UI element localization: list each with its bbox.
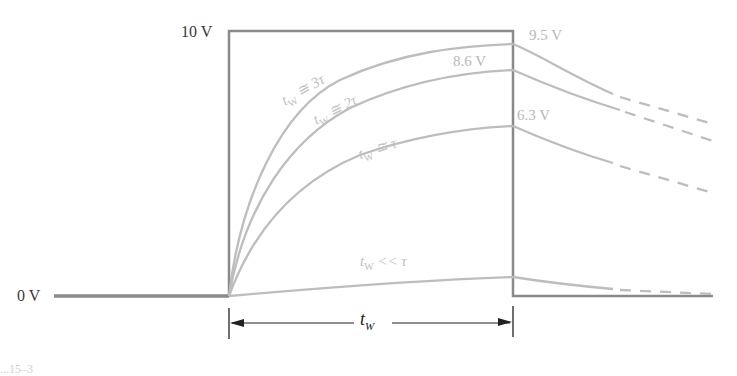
value-6-3v: 6.3 V [517,107,550,124]
curve-much-less-charge [229,277,513,296]
curve-much-less-discharge [513,277,613,289]
curve-much-less-tail [620,290,713,294]
arrowhead-right-icon [498,318,512,326]
arrowhead-left-icon [230,319,244,327]
value-8-6v: 8.6 V [453,53,486,70]
curve-2tau-tail [625,112,713,141]
figure-caption-fragment: ...15–3 [0,362,33,376]
input-pulse [229,31,713,296]
label-10v: 10 V [181,23,212,41]
curve-1tau-tail [620,166,713,193]
curve-label-much-less: tW << τ [360,253,407,272]
curve-3tau-tail [620,97,713,124]
label-0v: 0 V [17,287,40,305]
curve-1tau-discharge [513,126,613,163]
pulse-width-label: tW [356,309,378,332]
curve-3tau-discharge [513,44,613,94]
value-9-5v: 9.5 V [529,27,562,44]
